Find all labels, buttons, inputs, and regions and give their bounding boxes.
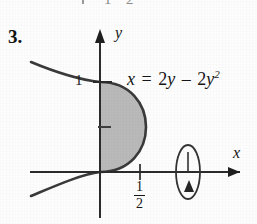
equation-term2-coeff: 2 bbox=[197, 69, 206, 89]
equation-term2-var: y bbox=[206, 69, 214, 89]
equation-term1-coeff: 2 bbox=[158, 69, 167, 89]
x-axis-arrowhead bbox=[228, 167, 240, 177]
fraction-numerator: 1 bbox=[136, 180, 143, 194]
equation-term1-var: y bbox=[167, 69, 175, 89]
y-axis-label: y bbox=[115, 24, 122, 42]
x-axis-label: x bbox=[233, 144, 240, 162]
equation-lhs: x bbox=[127, 69, 135, 89]
fraction-denominator: 2 bbox=[136, 197, 143, 211]
equation-operator: – bbox=[180, 69, 193, 89]
figure-page: 1 2 3. y x 1 1 2 x bbox=[0, 0, 257, 224]
equation-equals: = bbox=[140, 69, 154, 89]
equation-term2-exponent: 2 bbox=[214, 68, 220, 80]
graph-figure bbox=[0, 0, 257, 224]
y-tick-label-one: 1 bbox=[75, 72, 83, 89]
rotation-arrowhead bbox=[184, 180, 194, 192]
x-tick-label-one-half: 1 2 bbox=[134, 180, 145, 212]
curve-equation-label: x = 2y – 2y2 bbox=[127, 68, 220, 90]
y-axis-arrowhead bbox=[95, 29, 105, 43]
